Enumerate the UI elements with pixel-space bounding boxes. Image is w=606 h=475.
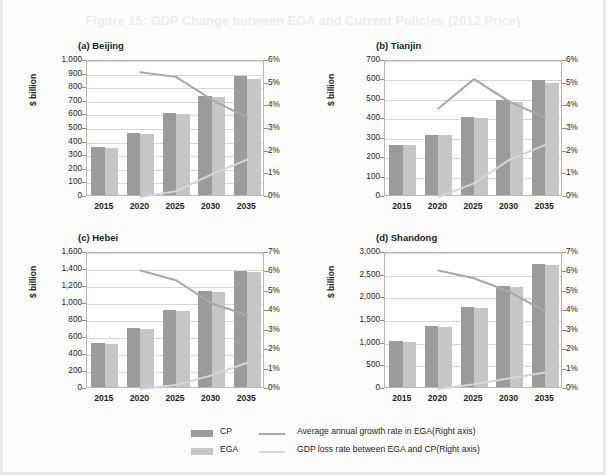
y-tick-mark-right <box>264 173 268 174</box>
y-tick-mark-left <box>82 388 86 389</box>
y-tick-left: 700 <box>334 55 380 64</box>
line-series-a <box>87 61 265 197</box>
y-tick-mark-left <box>82 354 86 355</box>
y-tick-mark-left <box>82 155 86 156</box>
y-tick-mark-left <box>82 60 86 61</box>
growth-rate-line <box>140 270 247 315</box>
y-tick-right: 1% <box>268 168 298 177</box>
y-tick-left: 800 <box>36 315 82 324</box>
y-tick-mark-left <box>380 388 384 389</box>
chart-panel-c: (c) Hebei$ billion02004006008001,0001,20… <box>8 230 304 422</box>
y-tick-right: 7% <box>268 247 298 256</box>
y-tick-left: 3,000 <box>334 247 380 256</box>
x-tick-2025: 2025 <box>157 393 193 403</box>
y-tick-mark-right <box>264 151 268 152</box>
y-tick-left: 1,000 <box>36 55 82 64</box>
x-tick-2030: 2030 <box>193 201 229 211</box>
y-tick-right: 5% <box>566 78 596 87</box>
y-tick-left: 300 <box>334 133 380 142</box>
y-tick-mark-left <box>380 252 384 253</box>
y-tick-left: 500 <box>36 123 82 132</box>
legend-swatch-loss-line <box>259 451 285 453</box>
gdp-loss-rate-line <box>438 372 545 389</box>
y-tick-mark-right <box>562 271 566 272</box>
legend-label-ega: EGA <box>220 444 238 454</box>
y-tick-right: 3% <box>268 123 298 132</box>
y-tick-mark-right <box>562 330 566 331</box>
y-tick-left: 0 <box>36 191 82 200</box>
y-tick-right: 6% <box>566 266 596 275</box>
y-tick-mark-right <box>562 310 566 311</box>
y-tick-right: 7% <box>566 247 596 256</box>
y-tick-mark-left <box>82 269 86 270</box>
y-tick-mark-left <box>82 74 86 75</box>
y-tick-left: 400 <box>334 113 380 122</box>
growth-rate-line <box>438 270 545 311</box>
y-tick-left: 0 <box>334 383 380 392</box>
y-tick-mark-left <box>380 275 384 276</box>
plot-area-c <box>86 252 264 388</box>
growth-rate-line <box>140 72 247 117</box>
y-tick-mark-left <box>380 79 384 80</box>
y-tick-mark-right <box>264 291 268 292</box>
legend-swatch-cp <box>191 430 213 437</box>
y-tick-mark-right <box>264 271 268 272</box>
y-tick-mark-left <box>82 337 86 338</box>
y-tick-left: 900 <box>36 69 82 78</box>
x-tick-2030: 2030 <box>491 393 527 403</box>
legend-swatch-growth-line <box>259 433 285 435</box>
legend-label-loss: GDP loss rate between EGA and CP(Right a… <box>297 444 480 454</box>
y-tick-right: 2% <box>268 344 298 353</box>
y-tick-mark-right <box>264 128 268 129</box>
y-tick-mark-left <box>82 101 86 102</box>
y-tick-left: 1,000 <box>334 338 380 347</box>
y-tick-left: 1,600 <box>36 247 82 256</box>
x-tick-2015: 2015 <box>384 201 420 211</box>
y-tick-mark-left <box>82 286 86 287</box>
y-tick-mark-left <box>380 118 384 119</box>
x-tick-2030: 2030 <box>193 393 229 403</box>
plot-area-b <box>384 60 562 196</box>
y-tick-mark-right <box>562 105 566 106</box>
y-tick-mark-left <box>82 182 86 183</box>
y-tick-left: 800 <box>36 82 82 91</box>
panel-title-d: (d) Shandong <box>376 232 437 243</box>
y-tick-mark-left <box>380 365 384 366</box>
y-tick-mark-left <box>380 157 384 158</box>
y-tick-right: 6% <box>268 55 298 64</box>
y-tick-right: 0% <box>268 383 298 392</box>
y-tick-left: 600 <box>36 332 82 341</box>
panel-title-c: (c) Hebei <box>78 232 118 243</box>
y-tick-mark-left <box>82 303 86 304</box>
gdp-loss-rate-line <box>140 363 247 389</box>
legend-label-cp: CP <box>220 426 232 436</box>
y-tick-mark-left <box>380 343 384 344</box>
y-tick-mark-left <box>82 87 86 88</box>
chart-panel-d: (d) Shandong$ billion05001,0001,5002,000… <box>306 230 602 422</box>
y-tick-mark-right <box>264 105 268 106</box>
y-tick-left: 100 <box>334 172 380 181</box>
y-tick-mark-right <box>562 173 566 174</box>
y-tick-mark-left <box>380 320 384 321</box>
y-tick-right: 5% <box>268 286 298 295</box>
y-tick-mark-left <box>380 99 384 100</box>
y-tick-mark-left <box>380 177 384 178</box>
y-tick-mark-right <box>264 388 268 389</box>
y-tick-right: 4% <box>566 100 596 109</box>
x-tick-2035: 2035 <box>526 201 562 211</box>
y-tick-mark-right <box>264 349 268 350</box>
y-tick-mark-left <box>82 114 86 115</box>
y-tick-right: 0% <box>566 383 596 392</box>
panel-title-b: (b) Tianjin <box>376 40 421 51</box>
x-tick-2035: 2035 <box>228 201 264 211</box>
y-tick-right: 2% <box>566 344 596 353</box>
y-tick-left: 700 <box>36 96 82 105</box>
y-tick-left: 400 <box>36 349 82 358</box>
y-tick-right: 2% <box>566 146 596 155</box>
y-tick-left: 200 <box>36 366 82 375</box>
chart-panel-a: (a) Beijing$ billion01002003004005006007… <box>8 38 304 230</box>
figure-title: Figure 15: GDP Change between EGA and Cu… <box>0 14 606 28</box>
y-tick-mark-left <box>82 128 86 129</box>
y-tick-left: 1,200 <box>36 281 82 290</box>
y-tick-mark-right <box>562 196 566 197</box>
